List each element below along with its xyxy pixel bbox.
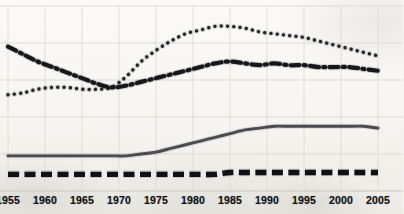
x-tick-label: 2000 <box>329 194 353 206</box>
x-tick-label: 1975 <box>144 194 168 206</box>
x-tick-label: 1965 <box>70 194 94 206</box>
x-tick-label: 1995 <box>292 194 316 206</box>
x-tick-label: 1980 <box>181 194 205 206</box>
x-tick-label: 1985 <box>218 194 242 206</box>
x-tick-label: 2005 <box>366 194 390 206</box>
x-tick-label: 1990 <box>255 194 279 206</box>
x-tick-label: 1955 <box>0 194 20 206</box>
x-tick-label: 1960 <box>33 194 57 206</box>
x-tick-label: 1970 <box>107 194 131 206</box>
x-axis-tick-labels: 1955196019651970197519801985199019952000… <box>0 0 404 214</box>
chart-figure: 1955196019651970197519801985199019952000… <box>0 0 404 214</box>
